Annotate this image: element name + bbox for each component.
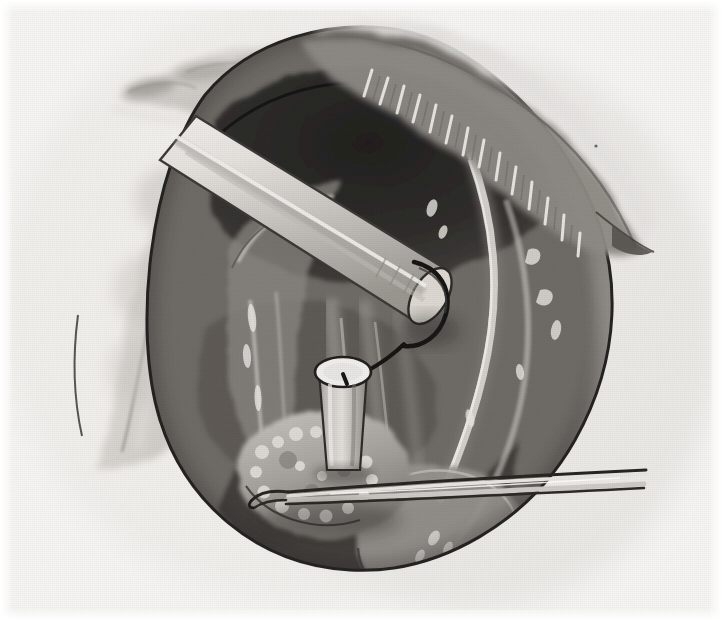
- paper-grain: [0, 0, 722, 620]
- illustration-canvas: [0, 0, 722, 620]
